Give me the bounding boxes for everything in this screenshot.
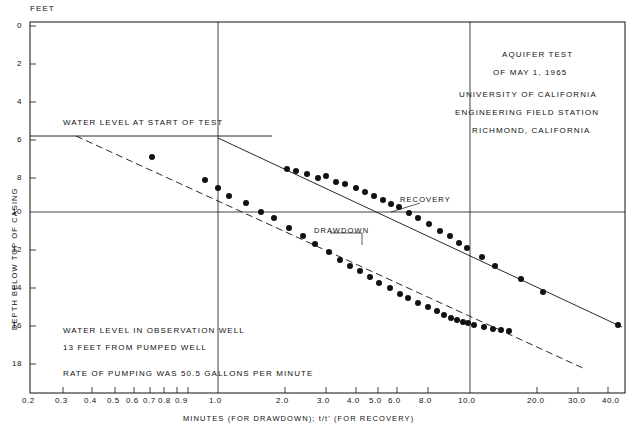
drawdown-label: DRAWDOWN bbox=[314, 226, 369, 235]
note-line-3: RATE OF PUMPING WAS 50.5 GALLONS PER MIN… bbox=[63, 369, 313, 378]
y-tick-4: 4 bbox=[17, 97, 22, 106]
title-line-4: ENGINEERING FIELD STATION bbox=[455, 108, 599, 117]
x-tick-3.0: 3.0 bbox=[317, 396, 330, 405]
x-tick-0.3: 0.3 bbox=[55, 396, 68, 405]
chart-canvas bbox=[0, 0, 640, 430]
x-tick-0.7: 0.7 bbox=[143, 396, 156, 405]
title-line-2: OF MAY 1, 1965 bbox=[493, 68, 567, 77]
x-tick-10.0: 10.0 bbox=[458, 396, 476, 405]
x-tick-0.2: 0.2 bbox=[22, 396, 35, 405]
y-unit-label: FEET bbox=[30, 4, 55, 13]
note-line-2: 13 FEET FROM PUMPED WELL bbox=[63, 343, 207, 352]
note-line-1: WATER LEVEL IN OBSERVATION WELL bbox=[63, 326, 245, 335]
x-tick-0.9: 0.9 bbox=[175, 396, 188, 405]
x-tick-5.0: 5.0 bbox=[369, 396, 382, 405]
y-tick-6: 6 bbox=[17, 135, 22, 144]
y-tick-2: 2 bbox=[17, 59, 22, 68]
x-axis-title: MINUTES (FOR DRAWDOWN); t/t' (FOR RECOVE… bbox=[183, 414, 414, 423]
chart-figure: FEET 0 2 4 6 8 10 12 14 16 18 DEPTH BELO… bbox=[0, 0, 640, 430]
recovery-label: RECOVERY bbox=[400, 195, 451, 204]
x-tick-1.0: 1.0 bbox=[209, 396, 222, 405]
x-tick-40.0: 40.0 bbox=[602, 396, 620, 405]
title-line-5: RICHMOND, CALIFORNIA bbox=[472, 126, 590, 135]
x-tick-6.0: 6.0 bbox=[388, 396, 401, 405]
x-tick-0.6: 0.6 bbox=[126, 396, 139, 405]
x-tick-8.0: 8.0 bbox=[419, 396, 432, 405]
x-tick-30.0: 30.0 bbox=[568, 396, 586, 405]
x-tick-4.0: 4.0 bbox=[347, 396, 360, 405]
x-tick-2.0: 2.0 bbox=[276, 396, 289, 405]
x-tick-20.0: 20.0 bbox=[527, 396, 545, 405]
x-tick-0.5: 0.5 bbox=[107, 396, 120, 405]
recovery-points bbox=[284, 166, 621, 328]
x-tick-0.4: 0.4 bbox=[84, 396, 97, 405]
y-tick-0: 0 bbox=[17, 21, 22, 30]
title-line-1: AQUIFER TEST bbox=[502, 50, 573, 59]
y-tick-8: 8 bbox=[17, 173, 22, 182]
recovery-fit-line bbox=[218, 138, 622, 327]
title-line-3: UNIVERSITY OF CALIFORNIA bbox=[459, 90, 597, 99]
water-level-annotation: WATER LEVEL AT START OF TEST bbox=[63, 118, 223, 127]
y-tick-18: 18 bbox=[12, 359, 22, 368]
x-tick-0.8: 0.8 bbox=[158, 396, 171, 405]
y-axis-title: DEPTH BELOW TOP OF CASING bbox=[10, 187, 19, 330]
